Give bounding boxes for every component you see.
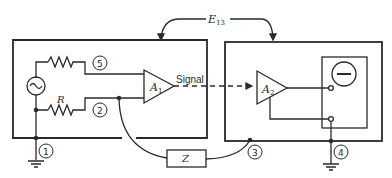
e13-arrowhead-right-icon	[270, 34, 276, 40]
terminal-icon	[329, 86, 334, 91]
impedance-z-label: Z	[181, 153, 190, 164]
grounding-diagram: E13 A1 A2 Signal R Z 1 2 3 4 5	[0, 0, 392, 178]
e13-arrow-right	[230, 19, 273, 38]
ground-icon	[323, 164, 339, 170]
sine-icon	[30, 84, 42, 89]
left-enclosure	[13, 40, 207, 138]
node-5-label: 5	[97, 59, 103, 69]
resistor-r-label: R	[56, 94, 65, 105]
wire	[36, 62, 48, 78]
node-4-label: 4	[338, 148, 344, 158]
node-3-label: 3	[252, 148, 258, 158]
signal-label: Signal	[176, 74, 204, 85]
wire	[270, 97, 330, 119]
junction-dot	[34, 136, 37, 139]
resistor-top	[48, 57, 144, 74]
wire	[36, 95, 48, 110]
ground-icon	[28, 161, 44, 167]
wire	[119, 98, 167, 158]
junction-dot	[329, 139, 332, 142]
terminal-icon	[329, 117, 334, 122]
junction-dot	[248, 138, 251, 141]
node-2-label: 2	[97, 106, 103, 116]
signal-arrowhead-icon	[246, 83, 252, 89]
wire	[206, 140, 250, 159]
e13-arrow-left	[161, 19, 208, 38]
node-1-label: 1	[43, 147, 49, 157]
